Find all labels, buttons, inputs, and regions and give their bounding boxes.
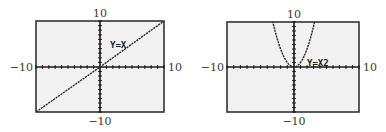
function-label: Y=X2: [307, 58, 329, 68]
xmax-label: 10: [168, 61, 182, 74]
figure: Y=X−101010−10 Y=X2−101010−10: [0, 0, 386, 132]
ymin-label: −10: [88, 115, 111, 128]
ymin-label: −10: [282, 115, 305, 128]
xmax-label: 10: [363, 61, 377, 74]
ymax-label: 10: [287, 8, 301, 21]
xmin-label: −10: [10, 61, 33, 74]
graph-panel-linear: Y=X−101010−10: [10, 7, 182, 128]
function-label: Y=X: [110, 40, 127, 50]
xmin-label: −10: [201, 61, 224, 74]
graph-panel-quadratic: Y=X2−101010−10: [201, 8, 377, 128]
ymax-label: 10: [93, 7, 107, 20]
